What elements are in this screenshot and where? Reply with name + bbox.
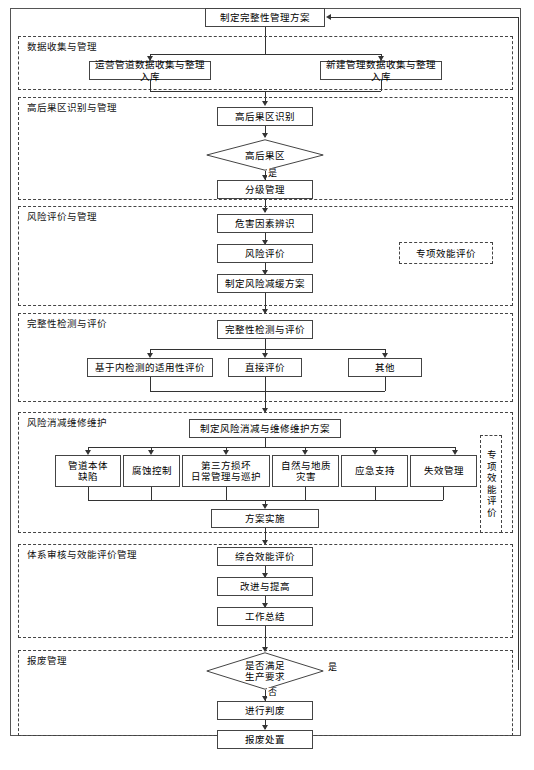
conn-merge-lane1-right [381, 80, 382, 91]
note-special-performance-evaluation-2: 专项效能评价 [480, 435, 502, 533]
node-other-evaluation: 其他 [348, 358, 422, 377]
conn-integrity-merge-right [385, 377, 386, 391]
node-third-party-damage: 第三方损坏 日常管理与巡护 [182, 455, 270, 487]
conn-integrity-merge [150, 391, 385, 392]
node-scrap-disposal: 报废处置 [217, 730, 313, 749]
flowchart-canvas: 制定完整性管理方案 数据收集与管理 运营管道数据收集与整理入库 新建管理数据收集… [0, 0, 534, 770]
node-hca-identification: 高后果区识别 [217, 107, 313, 126]
edge-label-scrap-yes: 是 [327, 662, 338, 672]
node-graded-management: 分级管理 [217, 180, 313, 199]
note-special-performance-evaluation-2-label: 专项效能评价 [486, 450, 497, 519]
node-start: 制定完整性管理方案 [205, 8, 325, 27]
conn-integrity-split [150, 349, 385, 350]
lane-label-integrity: 完整性检测与评价 [27, 318, 107, 330]
conn-integrity-merge-down [265, 377, 266, 412]
node-mitigation-maintenance-plan: 制定风险消减与维修维护方案 [189, 419, 341, 438]
conn-mit-m2 [151, 487, 152, 500]
node-new-build-data: 新建管理数据收集与整理入库 [320, 61, 442, 80]
node-scrap-judgement: 进行判废 [217, 701, 313, 720]
conn-mit-m1 [88, 487, 89, 500]
node-risk-evaluation: 风险评价 [217, 244, 313, 263]
conn-mitigation-split [88, 447, 455, 448]
node-work-summary: 工作总结 [217, 607, 313, 626]
conn-mitigation-down [265, 438, 266, 447]
lane-label-audit: 体系审核与效能评价管理 [27, 549, 137, 561]
node-operating-pipeline-data: 运营管道数据收集与整理入库 [89, 61, 211, 80]
conn-mit-m3 [226, 487, 227, 500]
node-direct-evaluation: 直接评价 [228, 358, 302, 377]
lane-label-data-collection: 数据收集与管理 [27, 41, 97, 53]
node-emergency-support: 应急支持 [341, 455, 408, 487]
node-risk-mitigation-plan: 制定风险减缓方案 [217, 274, 313, 293]
note-special-performance-evaluation-1: 专项效能评价 [399, 242, 493, 264]
feedback-arrow [326, 14, 331, 20]
node-failure-management: 失效管理 [410, 455, 477, 487]
conn-merge-lane1-left [150, 80, 151, 91]
arrow-hca-1 [262, 133, 268, 138]
feedback-line-top [331, 17, 518, 18]
node-comprehensive-performance-evaluation: 综合效能评价 [217, 547, 313, 566]
node-integrity-inspection-evaluation: 完整性检测与评价 [217, 320, 313, 339]
edge-label-scrap-no: 否 [267, 687, 278, 697]
node-hazard-identification: 危害因素辨识 [217, 214, 313, 233]
edge-label-hca-yes: 是 [267, 168, 278, 178]
decision-hca: 高后果区 [206, 139, 324, 171]
lane-label-hca: 高后果区识别与管理 [27, 102, 117, 114]
decision-production-requirement-label: 是否满足 生产要求 [206, 652, 324, 690]
conn-integrity-merge-left [150, 377, 151, 391]
conn-mit-m4 [305, 487, 306, 500]
node-improvement: 改进与提高 [217, 577, 313, 596]
node-plan-implementation: 方案实施 [211, 509, 319, 528]
decision-hca-label: 高后果区 [206, 139, 324, 171]
lane-label-risk: 风险评价与管理 [27, 211, 97, 223]
conn-integrity-down [265, 339, 266, 349]
conn-split-lane1 [150, 54, 381, 55]
feedback-line-right [518, 17, 519, 670]
node-pipeline-body-defect: 管道本体 缺陷 [55, 455, 121, 487]
conn-mit-m6 [443, 487, 444, 500]
lane-label-mitigation: 风险消减维修维护 [27, 417, 107, 429]
node-corrosion-control: 腐蚀控制 [123, 455, 180, 487]
node-ili-suitability-evaluation: 基于内检测的适用性评价 [87, 358, 213, 377]
decision-production-requirement: 是否满足 生产要求 [206, 652, 324, 690]
node-natural-geological-hazard: 自然与地质 灾害 [272, 455, 339, 487]
conn-mit-m5 [375, 487, 376, 500]
lane-label-scrap: 报废管理 [27, 655, 67, 667]
